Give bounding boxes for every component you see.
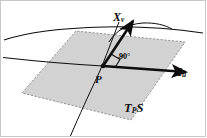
point-p-label: P — [95, 74, 102, 85]
tangent-vector-u-label: Xu — [174, 66, 186, 79]
right-angle-label: 90° — [119, 53, 130, 61]
point-p-marker — [101, 64, 106, 69]
tangent-vector-v-label: Xv — [113, 11, 124, 24]
tangent-plane-figure: Xv Xu P TPS 90° — [0, 0, 207, 138]
tangent-plane-surface — [22, 31, 185, 120]
tangent-plane-label: TPS — [124, 102, 143, 115]
